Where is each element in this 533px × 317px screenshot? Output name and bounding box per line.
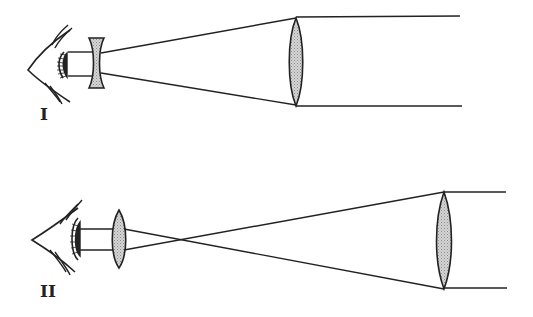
diagram-ii (32, 192, 507, 289)
concave-lens (89, 38, 104, 88)
objective-lens (437, 192, 452, 289)
objective-lens (289, 18, 303, 106)
eyepiece-lens (112, 210, 126, 268)
diagram-label-ii: II (40, 281, 56, 301)
diagram-i (28, 16, 462, 106)
eye-icon (32, 200, 82, 275)
telescope-diagram (0, 0, 533, 317)
diagram-label-i: I (40, 104, 48, 124)
eye-icon (28, 25, 72, 104)
